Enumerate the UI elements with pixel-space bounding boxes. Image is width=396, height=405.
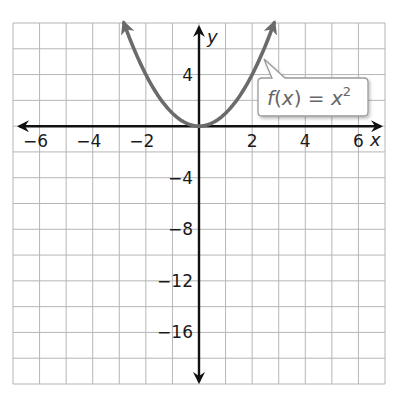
x-tick-label: 6 [353, 131, 364, 151]
y-tick-label: −4 [168, 168, 193, 188]
y-tick-label: −12 [157, 271, 193, 291]
y-tick-label: −8 [168, 219, 193, 239]
callout-label: f(x) = x2 [267, 84, 351, 110]
x-tick-labels: −6−4−2246 [23, 131, 364, 151]
x-tick-label: −2 [129, 131, 154, 151]
x-tick-label: −6 [23, 131, 48, 151]
y-tick-label: 4 [182, 65, 193, 85]
x-tick-label: 2 [247, 131, 258, 151]
x-tick-label: −4 [76, 131, 101, 151]
x-axis-label: x [369, 129, 381, 150]
x-tick-label: 4 [300, 131, 311, 151]
y-axis-label: y [206, 26, 218, 47]
y-tick-label: −16 [157, 322, 193, 342]
function-graph: y x −6−4−2246 4−4−8−12−16 f(x) = x2 [0, 0, 396, 405]
